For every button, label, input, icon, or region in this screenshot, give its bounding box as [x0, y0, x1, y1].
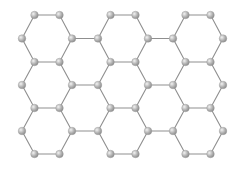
- graphene-lattice-diagram: [0, 0, 241, 169]
- carbon-atom: [68, 127, 76, 135]
- carbon-atom: [94, 81, 102, 89]
- carbon-atom: [107, 11, 115, 19]
- carbon-atom: [207, 104, 215, 112]
- carbon-atom: [18, 81, 26, 89]
- carbon-atom: [56, 104, 64, 112]
- carbon-atom: [56, 11, 64, 19]
- carbon-atom: [182, 104, 190, 112]
- carbon-atom: [207, 11, 215, 19]
- carbon-atom: [68, 35, 76, 43]
- carbon-atom: [144, 127, 152, 135]
- carbon-atom: [132, 11, 140, 19]
- bonds-layer: [22, 15, 223, 154]
- carbon-atom: [182, 58, 190, 66]
- carbon-atom: [144, 35, 152, 43]
- carbon-atom: [169, 35, 177, 43]
- carbon-atom: [56, 58, 64, 66]
- carbon-atom: [132, 104, 140, 112]
- carbon-atom: [219, 127, 227, 135]
- carbon-atom: [182, 11, 190, 19]
- carbon-atom: [56, 150, 64, 158]
- carbon-atom: [94, 127, 102, 135]
- carbon-atom: [219, 35, 227, 43]
- atoms-layer: [18, 11, 227, 158]
- carbon-atom: [107, 104, 115, 112]
- carbon-atom: [169, 81, 177, 89]
- carbon-atom: [219, 81, 227, 89]
- carbon-atom: [94, 35, 102, 43]
- carbon-atom: [68, 81, 76, 89]
- carbon-atom: [144, 81, 152, 89]
- carbon-atom: [207, 58, 215, 66]
- carbon-atom: [132, 58, 140, 66]
- carbon-atom: [18, 35, 26, 43]
- carbon-atom: [31, 58, 39, 66]
- carbon-atom: [132, 150, 140, 158]
- carbon-atom: [182, 150, 190, 158]
- carbon-atom: [107, 150, 115, 158]
- carbon-atom: [169, 127, 177, 135]
- carbon-atom: [31, 150, 39, 158]
- carbon-atom: [18, 127, 26, 135]
- carbon-atom: [207, 150, 215, 158]
- carbon-atom: [107, 58, 115, 66]
- carbon-atom: [31, 11, 39, 19]
- carbon-atom: [31, 104, 39, 112]
